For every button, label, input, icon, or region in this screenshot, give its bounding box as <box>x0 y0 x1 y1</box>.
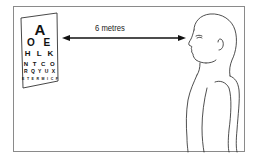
distance-arrow-icon <box>62 35 186 41</box>
chart-row-1: A <box>22 22 58 37</box>
distance-label: 6 metres <box>93 23 127 33</box>
eye-chart: A O E H L K N T C O R Q Y U X E T E R M … <box>22 14 58 86</box>
chart-row-6: E T E R M I C F <box>22 77 58 81</box>
chart-row-2: O E <box>22 38 58 48</box>
person-profile-icon <box>186 14 239 152</box>
chart-row-5: R Q Y U X <box>22 69 58 74</box>
chart-row-3: H L K <box>22 50 58 58</box>
chart-row-4: N T C O <box>22 61 58 67</box>
